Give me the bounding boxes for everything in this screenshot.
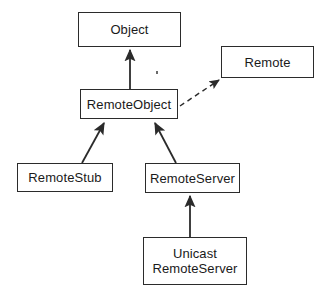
class-box-remote-server[interactable]: RemoteServer <box>145 163 240 193</box>
class-box-unicast-remote-server[interactable]: Unicast RemoteServer <box>143 237 247 285</box>
class-box-remote[interactable]: Remote <box>221 46 314 78</box>
scan-speck <box>156 71 158 74</box>
class-box-remote-stub-label: RemoteStub <box>28 170 101 185</box>
class-box-unicast-remote-server-label: Unicast RemoteServer <box>152 246 237 276</box>
class-box-remote-object-label: RemoteObject <box>87 97 171 112</box>
class-diagram: Object Remote RemoteObject RemoteStub Re… <box>0 0 327 299</box>
class-box-object-label: Object <box>110 22 148 37</box>
edge-remote-stub-to-remote-object <box>82 123 104 163</box>
edge-remote-object-to-remote <box>180 80 219 106</box>
class-box-remote-object[interactable]: RemoteObject <box>80 89 178 119</box>
class-box-remote-label: Remote <box>244 55 290 70</box>
class-box-object[interactable]: Object <box>78 12 181 47</box>
class-box-remote-stub[interactable]: RemoteStub <box>17 163 113 192</box>
edge-remote-server-to-remote-object <box>155 123 176 163</box>
class-box-remote-server-label: RemoteServer <box>150 171 235 186</box>
